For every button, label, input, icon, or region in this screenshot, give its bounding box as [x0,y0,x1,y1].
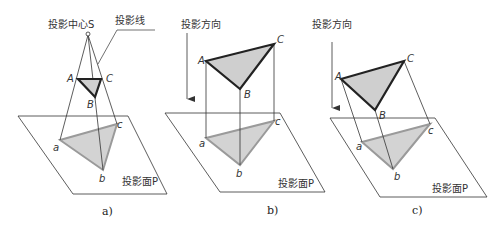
projected-triangle-abc-c [362,124,430,169]
space-triangle-abc-a [78,79,101,97]
point-A-c: A [334,71,342,82]
label-direction-b: 投影方向 [181,18,221,30]
label-projection-line: 投影线 [115,14,145,26]
projection-line-leader [98,30,155,64]
point-B-b: B [244,89,251,100]
point-C-b: C [277,34,284,45]
point-b-c: b [394,171,400,182]
space-triangle-abc-b [206,44,274,89]
point-b-a: b [99,173,105,184]
point-A-a: A [66,73,74,84]
point-A-b: A [197,55,205,66]
caption-b: b) [267,204,278,217]
space-triangle-abc-c [341,61,404,110]
point-b-b: b [236,168,242,179]
point-a-a: a [53,142,59,153]
point-a-b: a [199,138,205,149]
point-a-c: a [356,141,362,152]
projector-cc-c [404,61,430,124]
label-direction-c: 投影方向 [312,18,352,30]
caption-c: c) [412,204,422,217]
point-c-b: c [275,116,281,127]
projection-center-s-icon [86,32,90,36]
label-center-s: 投影中心S [48,18,94,30]
panel-b-orthographic-projection: 投影方向 A C B a c b 投影面P b) [165,18,325,217]
panel-c-oblique-projection: 投影方向 A C B a c b 投影面P c) [312,18,487,217]
label-plane-p-b: 投影面P [278,177,314,189]
projection-line-sa [60,35,88,140]
point-c-c: c [428,125,434,136]
point-c-a: c [117,119,123,130]
projection-diagram: 投影中心S 投影线 A C B a c b 投影面P a) 投影方向 A C B… [0,0,502,230]
projected-triangle-abc-a [60,124,117,170]
point-B-c: B [379,110,386,121]
caption-a: a) [102,205,113,218]
label-plane-p-a: 投影面P [122,175,158,187]
point-C-a: C [106,73,113,84]
point-B-a: B [87,99,94,110]
label-plane-p-c: 投影面P [432,182,468,194]
panel-a-central-projection: 投影中心S 投影线 A C B a c b 投影面P a) [18,14,167,218]
point-C-c: C [407,53,414,64]
